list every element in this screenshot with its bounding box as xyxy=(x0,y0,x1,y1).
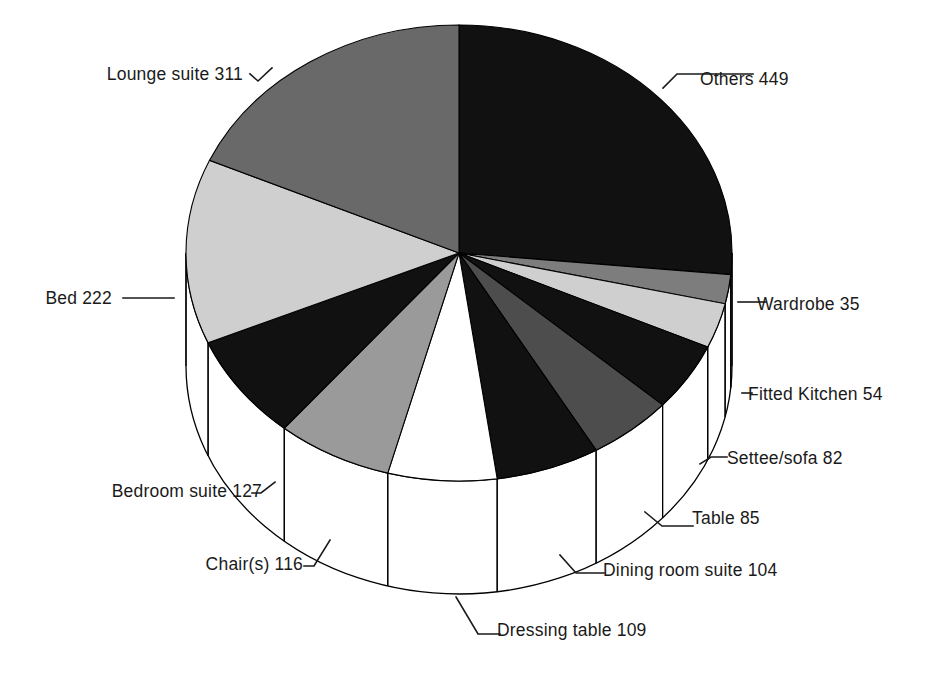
slice-label-bed: Bed 222 xyxy=(45,288,112,308)
slice-label-bedroom-suite: Bedroom suite 127 xyxy=(112,481,262,501)
pie-slice-others[interactable] xyxy=(459,25,732,275)
slice-label-lounge-suite: Lounge suite 311 xyxy=(107,64,243,84)
pie-chart-canvas: Others 449Wardrobe 35Fitted Kitchen 54Se… xyxy=(0,0,939,685)
slice-label-settee-sofa: Settee/sofa 82 xyxy=(727,448,843,468)
slice-label-dressing-table: Dressing table 109 xyxy=(497,620,647,640)
leader-lounge-suite xyxy=(250,68,272,81)
slice-label-dining-room-suite: Dining room suite 104 xyxy=(603,560,777,580)
slice-label-others: Others 449 xyxy=(700,69,789,89)
pie-chart-figure: Others 449Wardrobe 35Fitted Kitchen 54Se… xyxy=(0,0,939,685)
slice-label-fitted-kitchen: Fitted Kitchen 54 xyxy=(748,384,883,404)
leader-dressing-table xyxy=(456,597,500,634)
slice-label-wardrobe: Wardrobe 35 xyxy=(757,294,860,314)
slice-label-chair-s: Chair(s) 116 xyxy=(206,554,303,574)
pie-top-face xyxy=(186,25,732,481)
slice-label-table: Table 85 xyxy=(692,508,760,528)
